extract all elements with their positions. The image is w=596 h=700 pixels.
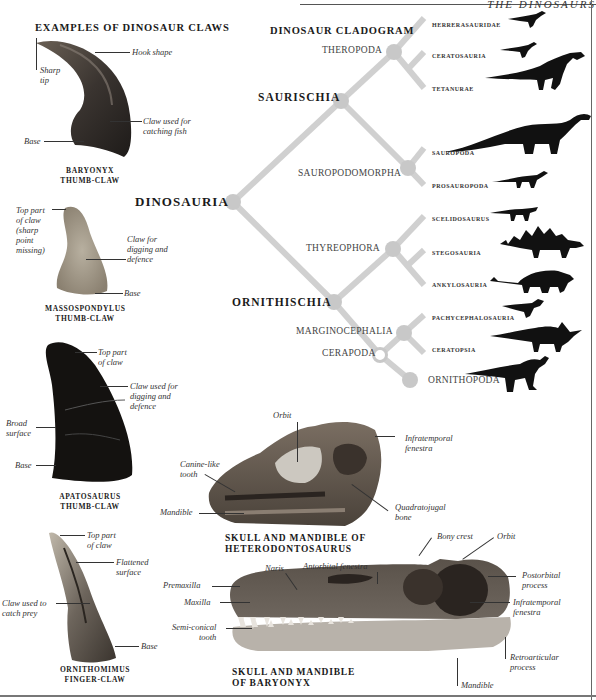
leader-line <box>375 436 395 437</box>
leader-line <box>220 602 250 603</box>
prosauropoda-silhouette-icon <box>492 170 552 192</box>
node-theropoda <box>386 44 402 60</box>
clade-thyreophora: THYREOPHORA <box>306 243 380 253</box>
label-naris: Naris <box>265 563 284 573</box>
taxon-herrerasauridae: HERRERASAURIDAE <box>432 22 501 28</box>
taxon-ceratopsia: CERATOPSIA <box>432 347 476 353</box>
page-bottom-rule <box>0 695 596 697</box>
leader-line <box>226 628 252 629</box>
leader-line <box>457 658 458 686</box>
clade-sauropodomorpha: SAUROPODOMORPHA <box>298 168 401 178</box>
taxon-tetanurae: TETANURAE <box>432 86 474 92</box>
clade-dinosauria: DINOSAURIA <box>135 194 229 210</box>
node-marginocephalia <box>396 325 412 341</box>
label-mandible: Mandible <box>461 680 494 690</box>
scelidosaurus-silhouette-icon <box>490 204 540 224</box>
leader-line <box>36 427 56 428</box>
leader-line <box>76 562 114 563</box>
caption-ornithomimus: ORNITHOMIMUSFINGER-CLAW <box>55 665 135 685</box>
sauropoda-silhouette-icon <box>445 112 595 157</box>
leader-line <box>377 572 378 584</box>
label-canine-tooth: Canine-liketooth <box>180 459 220 479</box>
label-postorbital-process: Postorbitalprocess <box>522 570 560 590</box>
clade-marginocephalia: MARGINOCEPHALIA <box>296 326 393 336</box>
leader-line <box>419 537 432 556</box>
label-base: Base <box>15 460 32 470</box>
leader-line <box>212 586 240 587</box>
node-sauropodomorpha <box>400 160 416 176</box>
caption-heterodontosaurus: SKULL AND MANDIBLE OFHETERODONTOSAURUS <box>225 533 366 555</box>
taxon-stegosauria: STEGOSAURIA <box>432 250 481 256</box>
clade-ornithischia: ORNITHISCHIA <box>232 296 332 308</box>
label-flattened-surface: Flattenedsurface <box>116 557 149 577</box>
leader-line <box>297 422 298 462</box>
node-thyreophora <box>385 241 401 257</box>
label-semi-conical-tooth: Semi-conicaltooth <box>172 622 216 642</box>
label-retroarticular-process: Retroarticularprocess <box>510 652 559 672</box>
leader-line <box>199 513 244 514</box>
leader-line <box>60 535 85 536</box>
leader-line <box>115 646 139 647</box>
leader-line <box>505 637 506 659</box>
label-claw-catch-prey: Claw used tocatch prey <box>2 598 46 618</box>
ornithopoda-silhouette-icon <box>465 354 550 394</box>
label-orbit: Orbit <box>497 531 515 541</box>
caption-apatosaurus: APATOSAURUSTHUMB-CLAW <box>55 492 125 512</box>
leader-line <box>36 465 56 466</box>
taxon-prosauropoda: PROSAUROPODA <box>432 183 489 189</box>
leader-line <box>488 576 516 577</box>
label-broad-surface: Broadsurface <box>6 418 31 438</box>
ceratopsia-silhouette-icon <box>490 320 585 355</box>
label-infratemporal-fenestra: Infratemporalfenestra <box>405 433 453 453</box>
label-bony-crest: Bony crest <box>437 531 473 541</box>
stegosauria-silhouette-icon <box>500 222 586 260</box>
taxon-ceratosauria: CERATOSAURIA <box>432 53 486 59</box>
label-quadratojugal-bone: Quadratojugalbone <box>395 502 446 522</box>
taxon-scelidosaurus: SCELIDOSAURUS <box>432 216 490 222</box>
clade-theropoda: THEROPODA <box>322 45 382 55</box>
label-mandible: Mandible <box>160 507 193 517</box>
leader-line <box>56 603 90 604</box>
tetanurae-silhouette-icon <box>485 48 590 93</box>
pachycephalosaurus-silhouette-icon <box>502 298 546 320</box>
label-top-part: Top partof claw <box>87 530 116 550</box>
taxon-ankylosauria: ANKYLOSAURIA <box>432 282 487 288</box>
label-infratemporal-fenestra: Infratemporalfenestra <box>513 597 561 617</box>
node-ornithopoda <box>402 372 418 388</box>
cladogram-title: DINOSAUR CLADOGRAM <box>270 25 414 36</box>
leader-line <box>470 602 510 603</box>
label-premaxilla: Premaxilla <box>163 580 200 590</box>
label-base: Base <box>141 641 158 651</box>
label-antorbital-fenestra: Antorbital fenestra <box>303 561 367 571</box>
ankylosauria-silhouette-icon <box>490 265 578 297</box>
label-maxilla: Maxilla <box>184 597 210 607</box>
clade-saurischia: SAURISCHIA <box>258 91 340 103</box>
herrerasaurus-silhouette-icon <box>508 8 548 30</box>
caption-baryonyx-skull: SKULL AND MANDIBLEOF BARYONYX <box>232 667 355 689</box>
label-orbit: Orbit <box>273 410 291 420</box>
clade-cerapoda: CERAPODA <box>322 348 376 358</box>
